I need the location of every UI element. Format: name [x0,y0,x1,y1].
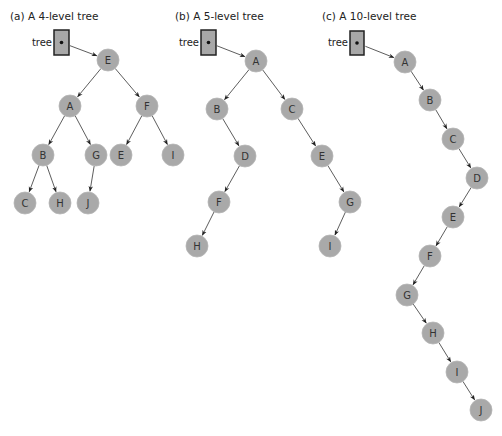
tree-node-d: D [466,167,488,189]
node-label: E [105,55,111,66]
tree-node-e: E [311,145,333,167]
tree-node-g: G [396,284,418,306]
tree-node-f: F [136,95,158,117]
node-label: I [456,367,459,378]
pointer-dot-icon [355,41,359,45]
tree-edge [413,304,426,323]
tree-edge [152,116,167,145]
tree-edge [75,116,90,145]
tree-edge [78,68,101,96]
tree-node-g: G [85,144,107,166]
node-label: A [402,57,409,68]
node-label: C [289,104,296,115]
node-label: D [473,173,481,184]
tree-c-10-level: (c) A 10-level treetreeABCDEFGHIJ [322,10,492,421]
node-label: E [319,151,325,162]
tree-node-h: H [49,192,71,214]
node-label: B [427,95,434,106]
tree-edge [115,68,139,96]
tree-node-i: I [162,144,184,166]
tree-title: (a) A 4-level tree [10,10,98,22]
node-label: G [92,150,100,161]
tree-edge [29,165,39,191]
tree-edge [225,70,249,100]
node-label: G [346,197,354,208]
pointer-dot-icon [207,41,211,45]
tree-edge [459,148,471,167]
node-label: H [193,241,201,252]
node-label: F [144,101,150,112]
pointer-label: tree [179,37,199,48]
tree-node-d: D [234,145,256,167]
pointer-label: tree [328,37,348,48]
tree-node-i: I [319,235,341,257]
tree-edge [411,71,423,90]
node-label: A [67,101,74,112]
tree-edge [90,166,94,191]
tree-node-h: H [186,235,208,257]
node-label: J [86,198,90,209]
node-label: E [118,150,124,161]
tree-node-a: A [245,50,267,72]
tree-edge [202,212,214,235]
tree-node-e: E [110,144,132,166]
node-label: C [450,134,457,145]
tree-a-4-level: (a) A 4-level treetreeEAFBGEICHJ [10,10,184,214]
node-label: I [329,241,332,252]
tree-node-j: J [470,399,492,421]
node-label: I [172,150,175,161]
node-label: A [253,56,260,67]
tree-node-b: B [32,144,54,166]
pointer-label: tree [32,37,52,48]
pointer-arrow [217,46,245,57]
tree-edge [225,166,240,192]
tree-edge [436,109,447,128]
pointer-arrow [70,46,97,56]
tree-edge [47,165,56,191]
tree-node-j: J [77,192,99,214]
node-label: C [22,198,29,209]
tree-edge [436,226,447,245]
tree-title: (c) A 10-level tree [322,10,416,22]
tree-edge [223,118,239,145]
tree-node-g: G [339,191,361,213]
node-label: J [479,405,483,416]
tree-diagrams: (a) A 4-level treetreeEAFBGEICHJ (b) A 5… [0,0,502,436]
pointer-dot-icon [60,41,64,45]
tree-node-f: F [419,245,441,267]
tree-edge [413,265,424,284]
tree-node-i: I [446,361,468,383]
node-label: H [429,328,437,339]
tree-edge [463,381,475,400]
node-label: F [427,251,433,262]
tree-node-b: B [419,89,441,111]
tree-edge [127,116,142,145]
tree-node-h: H [422,322,444,344]
node-label: D [241,151,249,162]
tree-edge [49,116,65,145]
tree-node-f: F [208,191,230,213]
tree-edge [263,70,285,100]
node-label: B [40,150,47,161]
tree-node-c: C [281,98,303,120]
tree-title: (b) A 5-level tree [175,10,264,22]
node-label: F [216,197,222,208]
pointer-arrow [365,46,393,57]
tree-node-e: E [97,49,119,71]
tree-edge [298,118,316,146]
tree-node-a: A [59,95,81,117]
node-label: H [56,198,64,209]
tree-node-c: C [14,192,36,214]
tree-edge [459,187,471,206]
tree-edge [439,342,451,361]
node-label: B [214,104,221,115]
tree-node-b: B [206,98,228,120]
tree-node-e: E [442,206,464,228]
tree-edge [328,165,344,191]
tree-node-a: A [394,51,416,73]
node-label: E [450,212,456,223]
node-label: G [403,290,411,301]
tree-edge [335,212,345,235]
tree-node-c: C [442,128,464,150]
